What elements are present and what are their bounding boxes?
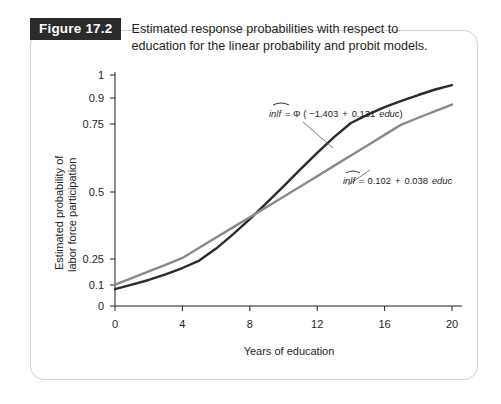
figure-caption-line-1: Estimated response probabilities with re… [131,21,427,38]
figure-container: Figure 17.2 Estimated response probabili… [0,0,501,404]
figure-header: Figure 17.2 Estimated response probabili… [30,18,460,54]
figure-caption-line-2: education for the linear probability and… [131,38,427,55]
figure-caption: Estimated response probabilities with re… [131,18,427,54]
figure-frame [30,30,478,380]
figure-number-tag: Figure 17.2 [30,18,121,40]
